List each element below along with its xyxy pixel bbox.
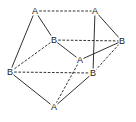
node-label: B (90, 68, 96, 78)
edge-dashed (93, 41, 122, 73)
edge-solid (80, 41, 122, 60)
node-label: B (51, 35, 57, 45)
edge-solid (54, 73, 93, 107)
node-a: A (77, 55, 84, 65)
edge-dashed (54, 60, 80, 107)
edge-dashed (54, 40, 122, 41)
node-a: A (92, 6, 99, 16)
edge-dashed (10, 72, 93, 73)
node-label: A (77, 55, 83, 65)
edge-solid (10, 72, 54, 107)
node-label: B (7, 67, 13, 77)
node-b: B (51, 35, 58, 45)
node-b: B (7, 67, 14, 77)
node-a: A (51, 102, 58, 112)
node-label: A (92, 6, 98, 16)
edge-solid (95, 11, 122, 41)
node-label: A (51, 102, 57, 112)
node-b: B (90, 68, 97, 78)
node-a: A (32, 6, 39, 16)
edges-layer (10, 11, 122, 107)
polyhedron-diagram: AABBABBA (0, 0, 136, 122)
node-label: A (32, 6, 38, 16)
node-b: B (119, 36, 126, 46)
node-label: B (119, 36, 125, 46)
edge-solid (93, 11, 95, 73)
